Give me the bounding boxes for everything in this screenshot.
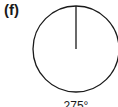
- circle-diagram: [0, 0, 118, 107]
- angle-label: 275°: [0, 100, 118, 107]
- figure-panel: (f) 275°: [0, 0, 118, 107]
